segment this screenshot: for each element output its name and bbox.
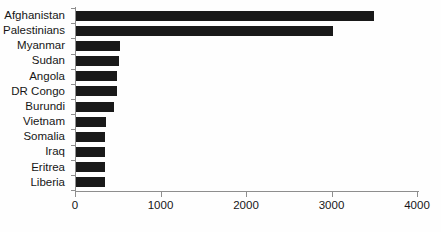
y-axis-tick (71, 160, 76, 161)
y-axis-label-sudan: Sudan (0, 54, 71, 69)
bar-slot (76, 84, 418, 99)
bar-palestinians (76, 26, 333, 36)
bar-afghanistan (76, 11, 374, 21)
bar-slot (76, 114, 418, 129)
plot-area (76, 8, 418, 190)
y-axis-tick (71, 190, 76, 191)
y-axis-tick (71, 145, 76, 146)
bar-liberia (76, 177, 105, 187)
x-axis-tick (332, 192, 333, 197)
bar-slot (76, 23, 418, 38)
x-axis-tick (417, 192, 418, 197)
bar-slot (76, 145, 418, 160)
y-axis-tick (71, 38, 76, 39)
x-axis-line (75, 191, 419, 192)
y-axis-label-liberia: Liberia (0, 175, 71, 190)
x-axis-tick-label: 2000 (233, 199, 259, 211)
y-axis-tick (71, 129, 76, 130)
y-axis-category-labels: Afghanistan Palestinians Myanmar Sudan A… (0, 8, 71, 190)
bar-eritrea (76, 162, 105, 172)
y-axis-label-somalia: Somalia (0, 129, 71, 144)
y-axis-label-eritrea: Eritrea (0, 160, 71, 175)
bar-slot (76, 160, 418, 175)
y-axis-tick (71, 23, 76, 24)
bar-slot (76, 69, 418, 84)
bar-series (76, 8, 418, 190)
bar-angola (76, 71, 117, 81)
x-axis-tick-label: 3000 (319, 199, 345, 211)
y-axis-label-afghanistan: Afghanistan (0, 8, 71, 23)
y-axis-label-myanmar: Myanmar (0, 38, 71, 53)
y-axis-label-burundi: Burundi (0, 99, 71, 114)
y-axis-label-dr-congo: DR Congo (0, 84, 71, 99)
y-axis-tick (71, 84, 76, 85)
y-axis-tick (71, 175, 76, 176)
y-axis-tick (71, 114, 76, 115)
y-axis-label-vietnam: Vietnam (0, 114, 71, 129)
bar-iraq (76, 147, 105, 157)
y-axis-label-palestinians: Palestinians (0, 23, 71, 38)
x-axis-tick (246, 192, 247, 197)
bar-slot (76, 38, 418, 53)
x-axis-tick-label: 0 (72, 199, 78, 211)
y-axis-tick (71, 69, 76, 70)
bar-slot (76, 99, 418, 114)
bar-burundi (76, 102, 114, 112)
x-axis-tick-label: 4000 (404, 199, 430, 211)
y-axis-tick (71, 54, 76, 55)
bar-dr-congo (76, 86, 117, 96)
x-axis-tick (161, 192, 162, 197)
bar-slot (76, 175, 418, 190)
bar-myanmar (76, 41, 120, 51)
y-axis-tick (71, 8, 76, 9)
bar-slot (76, 129, 418, 144)
y-axis-tick (71, 99, 76, 100)
y-axis-label-angola: Angola (0, 69, 71, 84)
bar-slot (76, 8, 418, 23)
bar-vietnam (76, 117, 106, 127)
bar-sudan (76, 56, 119, 66)
y-axis-label-iraq: Iraq (0, 145, 71, 160)
bar-somalia (76, 132, 105, 142)
bar-slot (76, 54, 418, 69)
x-axis-tick (75, 192, 76, 197)
x-axis-tick-label: 1000 (148, 199, 174, 211)
bar-chart: Afghanistan Palestinians Myanmar Sudan A… (0, 0, 441, 232)
